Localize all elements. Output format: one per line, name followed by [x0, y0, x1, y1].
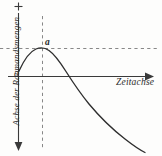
figure-container: Zeitachse Achse der Raumandsmengen a 0 — [0, 0, 162, 156]
y-axis-label: Achse der Raumandsmengen — [12, 40, 21, 126]
curve-path — [19, 48, 145, 152]
origin-label: 0 — [14, 70, 19, 79]
plus-icon — [15, 3, 23, 11]
peak-point-label: a — [45, 38, 50, 48]
x-axis-label: Zeitachse — [116, 78, 154, 88]
y-axis-bottom-arrowhead — [15, 142, 23, 151]
